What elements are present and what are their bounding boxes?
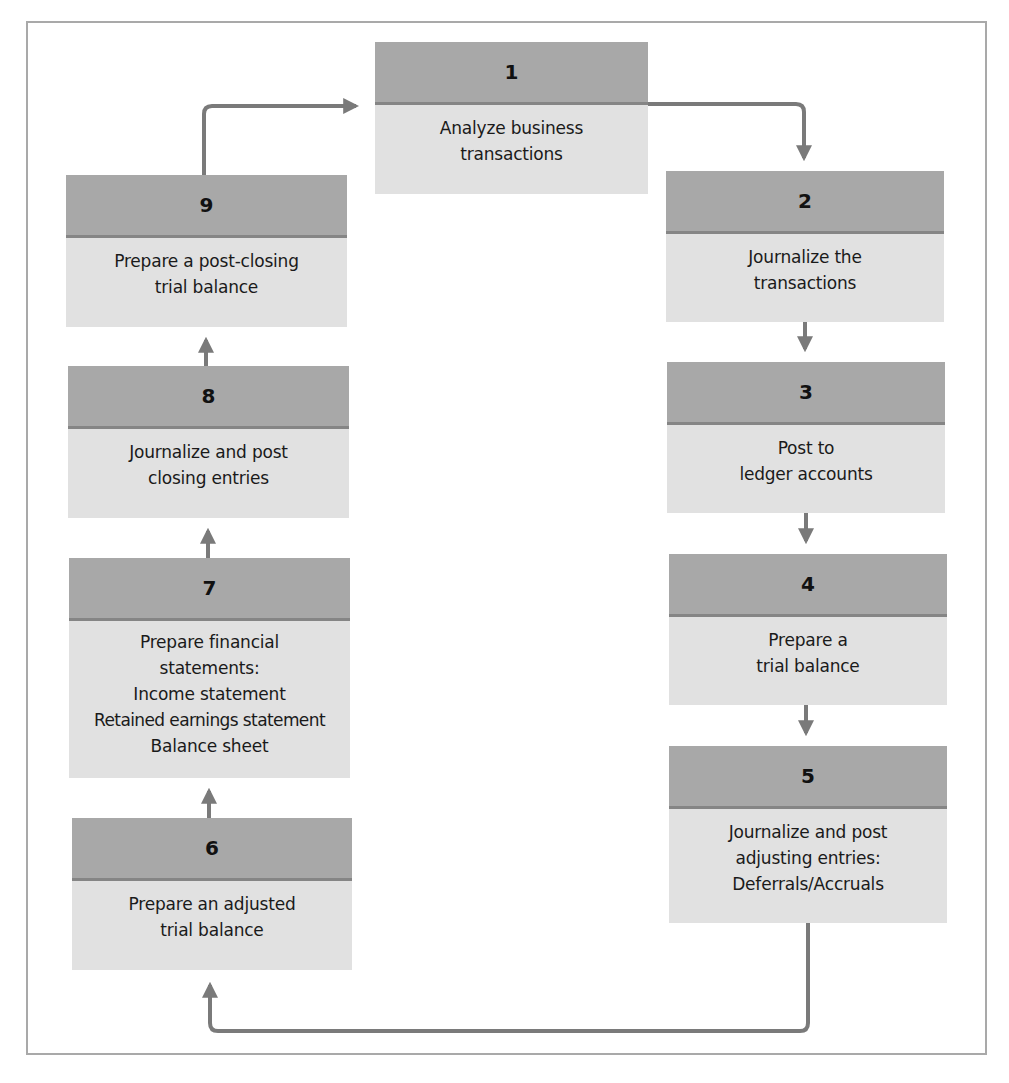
step-8-line: closing entries [148, 465, 269, 491]
step-4-number: 4 [669, 554, 947, 617]
step-3-description: Post to ledger accounts [667, 425, 945, 487]
step-9-line: trial balance [155, 274, 258, 300]
step-4-line: trial balance [756, 653, 859, 679]
step-3-line: ledger accounts [739, 461, 872, 487]
step-6-description: Prepare an adjusted trial balance [72, 881, 352, 943]
step-4-description: Prepare a trial balance [669, 617, 947, 679]
step-5-box: 5 Journalize and post adjusting entries:… [669, 746, 947, 923]
step-4-line: Prepare a [768, 627, 847, 653]
step-4-box: 4 Prepare a trial balance [669, 554, 947, 705]
step-2-line: transactions [754, 270, 857, 296]
step-6-line: Prepare an adjusted [129, 891, 296, 917]
step-3-number: 3 [667, 362, 945, 425]
step-8-line: Journalize and post [129, 439, 288, 465]
step-7-line: Income statement [133, 681, 285, 707]
step-8-box: 8 Journalize and post closing entries [68, 366, 349, 518]
step-2-box: 2 Journalize the transactions [666, 171, 944, 322]
step-5-line: Deferrals/Accruals [732, 871, 884, 897]
step-7-line: Prepare financial [140, 629, 279, 655]
step-9-line: Prepare a post-closing [114, 248, 299, 274]
step-1-line: Analyze business [440, 115, 583, 141]
step-6-line: trial balance [160, 917, 263, 943]
step-7-description: Prepare financial statements: Income sta… [69, 621, 350, 759]
step-6-number: 6 [72, 818, 352, 881]
step-2-line: Journalize the [748, 244, 861, 270]
step-3-line: Post to [778, 435, 835, 461]
step-9-box: 9 Prepare a post-closing trial balance [66, 175, 347, 327]
step-7-line: statements: [160, 655, 260, 681]
step-3-box: 3 Post to ledger accounts [667, 362, 945, 513]
step-1-box: 1 Analyze business transactions [375, 42, 648, 194]
step-7-line: Retained earnings statement [94, 707, 325, 733]
arrow-9-to-1 [204, 106, 356, 175]
step-7-number: 7 [69, 558, 350, 621]
step-5-line: adjusting entries: [736, 845, 881, 871]
step-2-description: Journalize the transactions [666, 234, 944, 296]
step-7-box: 7 Prepare financial statements: Income s… [69, 558, 350, 778]
step-8-description: Journalize and post closing entries [68, 429, 349, 491]
step-9-number: 9 [66, 175, 347, 238]
step-1-number: 1 [375, 42, 648, 105]
step-1-description: Analyze business transactions [375, 105, 648, 167]
step-6-box: 6 Prepare an adjusted trial balance [72, 818, 352, 970]
arrow-1-to-2 [648, 104, 804, 158]
step-5-number: 5 [669, 746, 947, 809]
step-2-number: 2 [666, 171, 944, 234]
step-5-line: Journalize and post [729, 819, 888, 845]
step-5-description: Journalize and post adjusting entries: D… [669, 809, 947, 897]
step-8-number: 8 [68, 366, 349, 429]
step-9-description: Prepare a post-closing trial balance [66, 238, 347, 300]
step-7-line: Balance sheet [151, 733, 269, 759]
step-1-line: transactions [460, 141, 563, 167]
